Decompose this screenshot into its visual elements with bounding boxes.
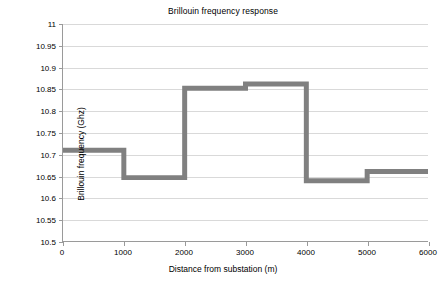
- x-axis-tick: [429, 242, 430, 246]
- y-axis-tick: [59, 220, 63, 221]
- y-axis-tick-label: 10.6: [40, 194, 56, 203]
- y-axis-title: Brillouin frequency (Ghz): [76, 74, 86, 234]
- x-axis-tick-label: 4000: [297, 248, 315, 257]
- y-axis-tick: [59, 198, 63, 199]
- y-axis-tick-label: 11: [48, 20, 56, 29]
- y-axis-tick-label: 10.5: [40, 238, 56, 247]
- y-axis-tick: [59, 68, 63, 69]
- x-axis-tick-label: 0: [60, 248, 64, 257]
- y-axis-tick: [59, 24, 63, 25]
- y-axis-tick: [59, 155, 63, 156]
- y-axis-tick-label: 10.95: [36, 42, 56, 51]
- plot-area: Brillouin frequency (Ghz): [62, 24, 428, 242]
- y-axis-tick-label: 10.9: [40, 64, 56, 73]
- x-axis-tick-label: 5000: [358, 248, 376, 257]
- x-axis-tick-label: 1000: [114, 248, 132, 257]
- y-axis-tick-label: 10.65: [36, 173, 56, 182]
- x-axis-tick-labels: 0100020003000400050006000: [62, 244, 428, 258]
- y-axis-tick-labels: 10.510.5510.610.6510.710.7510.810.8510.9…: [0, 24, 56, 242]
- x-axis-tick-label: 3000: [236, 248, 254, 257]
- x-axis-tick-label: 2000: [175, 248, 193, 257]
- y-axis-tick: [59, 177, 63, 178]
- y-axis-tick-label: 10.8: [40, 107, 56, 116]
- y-axis-tick: [59, 46, 63, 47]
- series-path: [63, 84, 428, 181]
- y-axis-tick: [59, 89, 63, 90]
- y-axis-tick-label: 10.55: [36, 216, 56, 225]
- y-axis-tick-label: 10.7: [40, 151, 56, 160]
- y-axis-tick-label: 10.85: [36, 85, 56, 94]
- chart-title: Brillouin frequency response: [0, 6, 446, 16]
- chart-container: Brillouin frequency response 10.510.5510…: [0, 0, 446, 284]
- y-axis-tick: [59, 111, 63, 112]
- x-axis-title: Distance from substation (m): [0, 264, 446, 274]
- x-axis-tick-label: 6000: [419, 248, 437, 257]
- y-axis-tick: [59, 133, 63, 134]
- y-axis-tick-label: 10.75: [36, 129, 56, 138]
- data-series-line: [63, 24, 428, 241]
- plot-inner: [63, 24, 428, 241]
